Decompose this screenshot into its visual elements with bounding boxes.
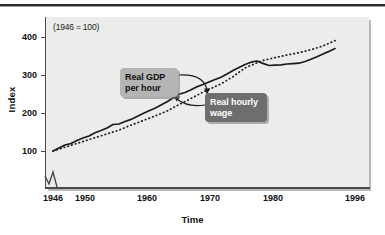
chart-figure: (1946 = 100) Index 400 300 200 100 1946 … (0, 0, 385, 235)
chart-canvas (0, 0, 385, 235)
callout-real-gdp-per-hour[interactable]: Real GDP per hour (120, 68, 178, 97)
callout-gdp-line1: Real GDP (125, 72, 173, 83)
callout-wage-line2: wage (210, 108, 262, 119)
callout-gdp-line2: per hour (125, 83, 173, 94)
gdp-per-hour-curve (53, 41, 335, 151)
callout-real-hourly-wage[interactable]: Real hourly wage (205, 93, 267, 122)
callout-wage-line1: Real hourly (210, 97, 262, 108)
gdp-callout-leader-line (179, 75, 207, 90)
real-hourly-wage-curve (53, 49, 335, 151)
axis-break-zigzag (45, 172, 57, 187)
wage-callout-leader-line (177, 99, 205, 106)
